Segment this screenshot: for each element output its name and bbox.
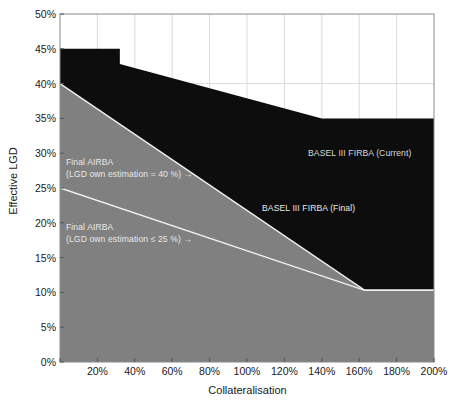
x-tick-label: 200% (409, 366, 456, 377)
annotation-airba-25-line2: (LGD own estimation ≤ 25 %) → (66, 234, 192, 246)
plot-area (0, 0, 456, 410)
annotation-airba-40-line2: (LGD own estimation = 40 %) → (66, 169, 192, 181)
annotation-basel-current: BASEL III FIRBA (Current) (308, 148, 411, 160)
annotation-airba-25-line1: Final AIRBA (66, 222, 113, 234)
x-axis-title: Collateralisation (60, 384, 435, 396)
chart-figure: Effective LGD 0%5%10%15%20%25%30%35%40%4… (0, 0, 456, 410)
annotation-airba-40-line1: Final AIRBA (66, 157, 113, 169)
x-axis-tick-labels: 20%40%60%80%100%120%140%160%180%200% (0, 366, 456, 386)
annotation-basel-final: BASEL III FIRBA (Final) (262, 203, 355, 215)
